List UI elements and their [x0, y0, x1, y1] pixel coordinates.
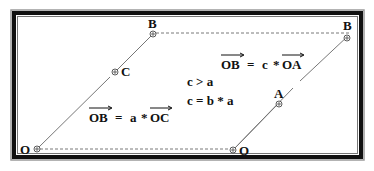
eq-left-op: = — [115, 110, 122, 125]
equation-left: OB = a * OC — [89, 106, 172, 125]
point-marker-right-O — [230, 147, 236, 153]
eq-right-mult: * — [273, 57, 280, 72]
point-marker-left-O — [34, 146, 40, 152]
eq-right-op: = — [247, 57, 254, 72]
left-vector — [37, 35, 152, 149]
label-left-B: B — [148, 16, 157, 31]
eq-right-rhs: OA — [282, 57, 302, 72]
label-left-C: C — [121, 64, 130, 79]
equation-right: OB = c * OA — [221, 53, 304, 72]
label-right-B: B — [343, 18, 352, 33]
right-vector — [234, 35, 349, 149]
label-right-A: A — [274, 86, 284, 101]
eq-right-lhs: OB — [221, 57, 240, 72]
point-marker-right-B — [344, 35, 350, 41]
relation-c-gt-a: c > a — [187, 74, 214, 89]
eq-left-scalar: a — [130, 110, 137, 125]
eq-left-mult: * — [141, 110, 148, 125]
eq-right-scalar: c — [262, 57, 268, 72]
point-marker-left-C — [112, 69, 118, 75]
relation-c-eq-ba: c = b * a — [187, 93, 234, 108]
point-marker-right-A — [276, 101, 282, 107]
point-marker-left-B — [150, 31, 156, 37]
eq-left-lhs: OB — [89, 110, 108, 125]
label-right-O: O — [239, 143, 249, 158]
vector-diagram: O C B O A B OB = c * OA c > a c = b * a … — [0, 0, 374, 171]
label-left-O: O — [20, 142, 30, 157]
eq-left-rhs: OC — [150, 110, 170, 125]
